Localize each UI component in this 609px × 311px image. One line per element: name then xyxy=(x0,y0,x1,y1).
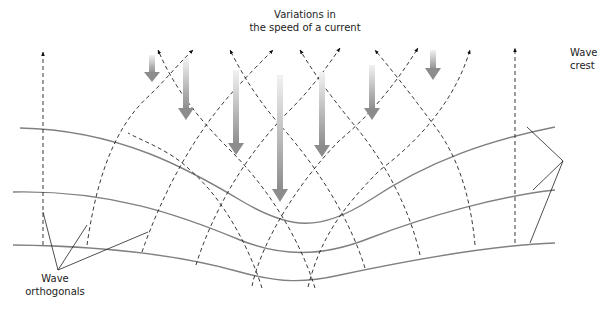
current-arrow xyxy=(144,55,160,82)
wave-crest-label: Wave crest xyxy=(570,46,608,72)
crest-line-1: Wave xyxy=(570,46,608,59)
orthogonal-line xyxy=(142,50,273,252)
orthogonals-line-2: orthogonals xyxy=(20,285,90,298)
current-arrow xyxy=(425,50,441,80)
orthogonal-line xyxy=(375,50,475,245)
orthogonal-line xyxy=(300,50,420,255)
crest-line-2: crest xyxy=(570,59,608,72)
wave-crests xyxy=(13,127,555,281)
orthogonal-line xyxy=(128,133,262,288)
wave-crest-line xyxy=(13,190,555,253)
current-speed-label: Variations in the speed of a current xyxy=(215,8,395,34)
current-arrows xyxy=(144,50,441,202)
orthogonals-line-1: Wave xyxy=(20,272,90,285)
title-line-1: Variations in xyxy=(215,8,395,21)
wave-crest-line xyxy=(13,243,555,281)
current-arrow xyxy=(272,75,288,202)
orthogonal-line xyxy=(308,50,470,287)
current-arrow xyxy=(364,65,380,120)
current-arrow xyxy=(314,72,330,157)
current-arrow xyxy=(178,58,194,120)
orthogonal-line xyxy=(196,48,340,265)
title-line-2: the speed of a current xyxy=(215,21,395,34)
wave-crest-line xyxy=(20,127,555,223)
wave-orthogonals-label: Wave orthogonals xyxy=(20,272,90,298)
wave-refraction-diagram xyxy=(0,0,609,311)
orthogonal-line xyxy=(230,50,365,268)
